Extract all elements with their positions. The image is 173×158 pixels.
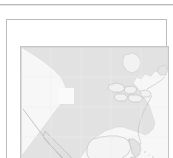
top-divider-shadow <box>0 5 173 6</box>
map-frame[interactable] <box>20 46 169 158</box>
north-america-locator-map[interactable] <box>21 47 168 158</box>
application-root <box>0 0 173 158</box>
gulf-of-mexico <box>87 136 131 158</box>
map-vector-graphic <box>21 47 168 158</box>
map-outer-panel <box>6 19 167 158</box>
